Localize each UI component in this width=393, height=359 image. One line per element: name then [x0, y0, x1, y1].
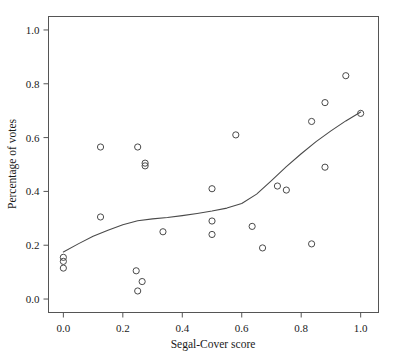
- data-point-marker: [209, 231, 215, 237]
- x-tick-label: 0.2: [116, 322, 130, 334]
- data-point-marker: [139, 278, 145, 284]
- data-point-marker: [97, 144, 103, 150]
- data-point-marker: [209, 218, 215, 224]
- x-axis-tick-labels: 0.00.20.40.60.81.0: [56, 322, 368, 334]
- data-point-marker: [60, 258, 66, 264]
- x-axis-tick-marks: [63, 313, 360, 318]
- x-tick-label: 0.4: [175, 322, 189, 334]
- data-point-marker: [233, 132, 239, 138]
- data-point-marker: [133, 268, 139, 274]
- y-axis-tick-labels: 0.00.20.40.60.81.0: [26, 24, 40, 305]
- data-point-marker: [274, 183, 280, 189]
- plot-frame: [49, 17, 379, 313]
- data-point-marker: [283, 187, 289, 193]
- data-points: [60, 73, 364, 294]
- plot-canvas: 0.00.20.40.60.81.0 0.00.20.40.60.81.0 Se…: [0, 0, 393, 359]
- data-point-marker: [160, 229, 166, 235]
- y-tick-label: 0.2: [26, 239, 40, 251]
- y-tick-label: 0.0: [26, 293, 40, 305]
- data-point-marker: [209, 186, 215, 192]
- data-point-marker: [322, 164, 328, 170]
- data-point-marker: [309, 118, 315, 124]
- data-point-marker: [135, 288, 141, 294]
- data-point-marker: [309, 241, 315, 247]
- scatter-plot-figure: 0.00.20.40.60.81.0 0.00.20.40.60.81.0 Se…: [0, 0, 393, 359]
- data-point-marker: [343, 73, 349, 79]
- x-tick-label: 0.6: [235, 322, 249, 334]
- data-point-marker: [60, 265, 66, 271]
- data-point-marker: [259, 245, 265, 251]
- data-point-marker: [322, 100, 328, 106]
- data-point-marker: [135, 144, 141, 150]
- y-tick-label: 0.4: [26, 185, 40, 197]
- y-tick-label: 1.0: [26, 24, 40, 36]
- y-axis-title: Percentage of votes: [6, 118, 19, 209]
- x-axis-title: Segal-Cover score: [171, 338, 256, 351]
- y-tick-label: 0.6: [26, 132, 40, 144]
- data-point-marker: [97, 214, 103, 220]
- y-tick-label: 0.8: [26, 78, 40, 90]
- x-tick-label: 0.0: [56, 322, 70, 334]
- x-tick-label: 1.0: [354, 322, 368, 334]
- x-tick-label: 0.8: [294, 322, 308, 334]
- y-axis-tick-marks: [44, 30, 49, 299]
- data-point-marker: [249, 223, 255, 229]
